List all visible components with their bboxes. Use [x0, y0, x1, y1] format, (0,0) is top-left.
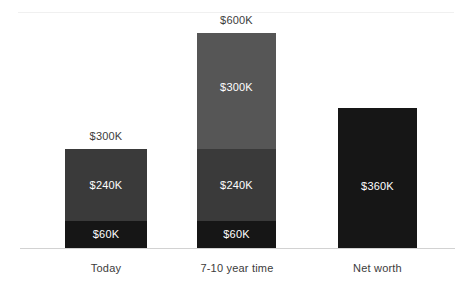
bar-total-label-7-10-year-time: $600K: [197, 14, 276, 26]
bar-segment-label-net-worth-360k: $360K: [361, 181, 394, 192]
category-label-7-10-year-time: 7-10 year time: [192, 262, 282, 274]
category-label-today: Today: [65, 262, 147, 274]
bar-7-10-year-time[interactable]: $300K $240K $60K: [197, 33, 276, 248]
bar-segment-label-7-10-year-time-240k: $240K: [220, 180, 253, 191]
plot-area: $300K $240K $60K $600K $300K $240K: [0, 0, 472, 285]
bar-segment-7-10-year-time-240k[interactable]: $240K: [197, 149, 276, 221]
bar-segment-7-10-year-time-300k[interactable]: $300K: [197, 33, 276, 149]
bar-segment-today-60k[interactable]: $60K: [65, 221, 147, 248]
bar-segment-net-worth-360k[interactable]: $360K: [338, 108, 417, 248]
category-label-net-worth: Net worth: [338, 262, 417, 274]
category-axis-line: [20, 248, 455, 249]
bar-group-net-worth: $360K: [338, 108, 417, 248]
bar-group-today: $300K $240K $60K: [65, 149, 147, 248]
bar-segment-7-10-year-time-60k[interactable]: $60K: [197, 221, 276, 248]
bar-segment-label-7-10-year-time-300k: $300K: [220, 82, 253, 93]
stacked-bar-chart: $300K $240K $60K $600K $300K $240K: [0, 0, 472, 285]
bar-segment-label-today-240k: $240K: [90, 180, 123, 191]
bar-total-label-today: $300K: [65, 130, 147, 142]
bar-segment-label-today-60k: $60K: [93, 229, 120, 240]
bar-segment-label-7-10-year-time-60k: $60K: [223, 229, 250, 240]
bar-segment-today-240k[interactable]: $240K: [65, 149, 147, 221]
bar-group-7-10-year-time: $600K $300K $240K $60K: [197, 33, 276, 248]
bar-today[interactable]: $240K $60K: [65, 149, 147, 248]
bar-net-worth[interactable]: $360K: [338, 108, 417, 248]
